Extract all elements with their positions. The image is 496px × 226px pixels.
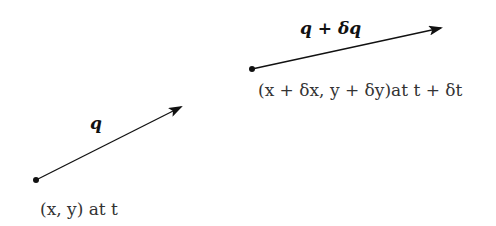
vector-q-label: q [90,113,102,133]
point-start-q-plus-dq [249,66,255,72]
vector-q-plus-dq-label: q + δq [300,18,361,38]
diagram-canvas [0,0,496,226]
point-q-label: (x, y) at t [40,199,118,219]
vector-q-arrow [36,107,181,180]
point-q-plus-dq-label: (x + δx, y + δy)at t + δt [258,80,462,100]
point-start-q [33,177,39,183]
